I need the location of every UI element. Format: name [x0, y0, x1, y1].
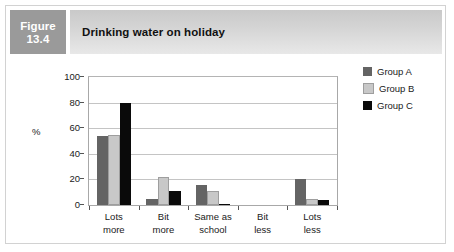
legend-swatch [363, 101, 372, 110]
y-tick-mark [80, 204, 84, 205]
legend-label: Group B [379, 83, 414, 94]
x-tick-label-line: less [254, 224, 271, 237]
figure-number-value: 13.4 [10, 33, 66, 46]
bar [219, 204, 231, 205]
x-tick-label-line: Same as [194, 211, 232, 224]
y-tick-mark [80, 102, 84, 103]
bar [196, 185, 208, 205]
legend-label: Group A [377, 66, 412, 77]
figure-title: Drinking water on holiday [82, 26, 225, 38]
x-tick-label-line: Bit [254, 211, 271, 224]
y-tick-label: 60 [69, 122, 80, 133]
chart-legend: Group AGroup BGroup C [363, 64, 441, 115]
bars-layer [89, 77, 337, 205]
figure-header: Figure 13.4 Drinking water on holiday [10, 10, 442, 54]
x-tick-mark [287, 206, 288, 210]
figure-card: Figure 13.4 Drinking water on holiday % … [5, 5, 446, 244]
x-tick-label-line: more [103, 224, 125, 237]
y-tick-mark [80, 178, 84, 179]
y-axis-tick-labels: 020406080100 [44, 76, 84, 206]
x-tick-mark [139, 206, 140, 210]
x-tick-label-line: Lots [303, 211, 321, 224]
y-tick-label: 20 [69, 173, 80, 184]
figure-number-badge: Figure 13.4 [10, 10, 66, 54]
x-tick-mark [337, 206, 338, 210]
y-tick-mark [80, 127, 84, 128]
y-tick-label: 80 [69, 96, 80, 107]
x-axis-tick-labels: LotsmoreBitmoreSame asschoolBitlessLotsl… [89, 211, 337, 241]
x-tick-mark [238, 206, 239, 210]
x-tick-label-line: more [153, 224, 175, 237]
y-axis-title: % [32, 126, 40, 137]
y-tick-label: 40 [69, 147, 80, 158]
y-tick-label: 100 [64, 71, 80, 82]
x-tick-label: Same asschool [194, 211, 232, 236]
x-tick-label: Bitmore [153, 211, 175, 236]
bar-group [295, 77, 330, 205]
x-tick-label-line: school [194, 224, 232, 237]
x-tick-mark [188, 206, 189, 210]
x-tick-label-line: Bit [153, 211, 175, 224]
legend-item: Group B [363, 81, 441, 96]
legend-swatch [363, 67, 372, 76]
bar [120, 103, 132, 205]
legend-swatch [363, 83, 374, 94]
bar [295, 179, 307, 205]
x-tick-label-line: less [303, 224, 321, 237]
y-tick-mark [80, 76, 84, 77]
bar [207, 191, 219, 205]
y-tick-mark [80, 153, 84, 154]
x-tick-label: Bitless [254, 211, 271, 236]
x-tick-label: Lotsless [303, 211, 321, 236]
figure-number-word: Figure [10, 20, 66, 33]
bar-group [97, 77, 132, 205]
bar [169, 191, 181, 205]
legend-item: Group A [363, 64, 441, 79]
legend-item: Group C [363, 98, 441, 113]
bar [318, 200, 330, 205]
bar [97, 136, 109, 205]
bar [108, 135, 120, 205]
bar [158, 177, 170, 205]
bar [306, 199, 318, 205]
bar-group [146, 77, 181, 205]
bar [146, 199, 158, 205]
legend-label: Group C [377, 100, 413, 111]
x-tick-mark [89, 206, 90, 210]
bar-group [245, 77, 280, 205]
x-tick-label-line: Lots [103, 211, 125, 224]
x-tick-label: Lotsmore [103, 211, 125, 236]
figure-title-bar: Drinking water on holiday [70, 10, 442, 54]
bar-group [196, 77, 231, 205]
